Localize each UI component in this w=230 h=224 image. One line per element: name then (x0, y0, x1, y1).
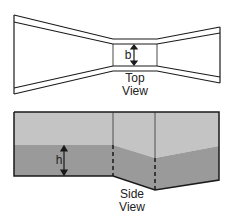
h-label: h (54, 154, 64, 167)
side-view-caption-line2: View (115, 201, 149, 214)
top-view-drawing (14, 15, 220, 94)
top-view-caption: Top View (118, 72, 152, 98)
top-view-caption-line2: View (118, 85, 152, 98)
side-view-caption: Side View (115, 188, 149, 214)
side-view-drawing (14, 112, 219, 190)
b-label: b (123, 49, 133, 62)
